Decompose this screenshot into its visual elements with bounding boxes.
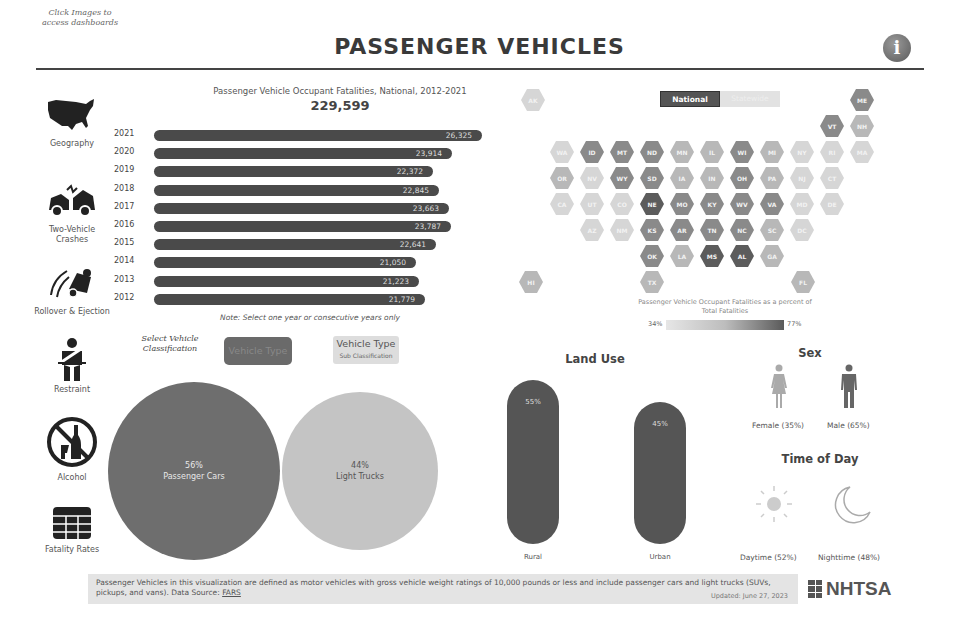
national-toggle[interactable]: National (660, 91, 720, 107)
state-hex-ok[interactable]: OK (640, 245, 664, 267)
state-hex-nj[interactable]: NJ (790, 167, 814, 189)
land-use-title: Land Use (540, 352, 650, 366)
state-hex-de[interactable]: DE (820, 193, 844, 215)
state-hex-ct[interactable]: CT (820, 167, 844, 189)
light-trucks-bubble[interactable]: 44% Light Trucks (282, 392, 438, 550)
rural-pct: 55% (507, 398, 559, 406)
urban-bar[interactable]: 45% (634, 402, 686, 544)
state-hex-pa[interactable]: PA (760, 167, 784, 189)
time-of-day-title: Time of Day (760, 452, 880, 466)
map-legend-title: Passenger Vehicle Occupant Fatalities as… (630, 298, 820, 316)
passenger-cars-bubble[interactable]: 56% Passenger Cars (108, 382, 280, 560)
state-hex-vt[interactable]: VT (820, 115, 844, 137)
vehicle-type-sub-classification-button[interactable]: Vehicle Type Sub Classification (333, 336, 399, 364)
male-icon[interactable] (838, 364, 860, 414)
vehicle-type-button[interactable]: Vehicle Type (224, 337, 292, 365)
bar-row-2017: 201723,663 (114, 201, 494, 215)
state-hex-il[interactable]: IL (700, 141, 724, 163)
state-hex-id[interactable]: ID (580, 141, 604, 163)
year-bar[interactable]: 26,325 (154, 130, 482, 141)
bar-row-2014: 201421,050 (114, 255, 494, 269)
state-hex-ri[interactable]: RI (820, 141, 844, 163)
year-bar[interactable]: 21,223 (154, 276, 419, 287)
nhtsa-logo[interactable]: NHTSA (808, 575, 928, 603)
state-hex-fl[interactable]: FL (791, 271, 815, 293)
state-hex-nm[interactable]: NM (610, 219, 634, 241)
state-hex-ma[interactable]: MA (850, 141, 874, 163)
state-hex-wy[interactable]: WY (610, 167, 634, 189)
state-hex-or[interactable]: OR (550, 167, 574, 189)
state-hex-nh[interactable]: NH (850, 115, 874, 137)
state-hex-oh[interactable]: OH (730, 167, 754, 189)
state-hex-mo[interactable]: MO (670, 193, 694, 215)
state-hex-dc[interactable]: DC (790, 219, 814, 241)
state-hex-tx[interactable]: TX (640, 271, 664, 293)
statewide-toggle[interactable]: Statewide (720, 91, 780, 107)
light-trucks-label: Light Trucks (336, 471, 384, 482)
state-hex-hi[interactable]: HI (519, 271, 543, 293)
state-hex-sd[interactable]: SD (640, 167, 664, 189)
year-bar[interactable]: 22,845 (154, 185, 439, 196)
click-images-note: Click Images to access dashboards (40, 8, 120, 28)
header-divider (36, 68, 924, 70)
state-hex-ne[interactable]: NE (640, 193, 664, 215)
state-hex-md[interactable]: MD (790, 193, 814, 215)
state-hex-wv[interactable]: WV (730, 193, 754, 215)
bar-row-2013: 201321,223 (114, 274, 494, 288)
state-hex-ga[interactable]: GA (760, 245, 784, 267)
state-hex-mt[interactable]: MT (610, 141, 634, 163)
seatbelt-icon (45, 336, 99, 382)
state-hex-az[interactable]: AZ (580, 219, 604, 241)
state-hex-ny[interactable]: NY (790, 141, 814, 163)
state-hex-ia[interactable]: IA (670, 167, 694, 189)
sidebar-item-rollover-ejection[interactable]: Rollover & Ejection (32, 262, 112, 317)
year-bar[interactable]: 21,050 (154, 257, 416, 268)
moon-icon[interactable] (830, 484, 872, 530)
rural-bar[interactable]: 55% (507, 380, 559, 544)
year-bar[interactable]: 22,372 (154, 166, 433, 177)
state-hex-ut[interactable]: UT (580, 193, 604, 215)
state-hex-ks[interactable]: KS (640, 219, 664, 241)
chart-title: Passenger Vehicle Occupant Fatalities, N… (140, 86, 540, 96)
state-hex-tn[interactable]: TN (700, 219, 724, 241)
year-bar[interactable]: 23,787 (154, 221, 451, 232)
state-hex-nv[interactable]: NV (580, 167, 604, 189)
state-hex-mi[interactable]: MI (760, 141, 784, 163)
state-hex-ky[interactable]: KY (700, 193, 724, 215)
state-hex-nd[interactable]: ND (640, 141, 664, 163)
sidebar-item-alcohol[interactable]: Alcohol (32, 414, 112, 483)
fars-source-link[interactable]: FARS (222, 588, 241, 597)
state-hex-ar[interactable]: AR (670, 219, 694, 241)
state-hex-la[interactable]: LA (670, 245, 694, 267)
state-hex-in[interactable]: IN (700, 167, 724, 189)
info-icon[interactable]: i (883, 34, 911, 62)
state-hex-ms[interactable]: MS (700, 245, 724, 267)
state-hex-nc[interactable]: NC (730, 219, 754, 241)
bar-row-2012: 201221,779 (114, 292, 494, 306)
state-hex-va[interactable]: VA (760, 193, 784, 215)
bar-year-label: 2018 (114, 184, 144, 193)
sidebar-item-geography[interactable]: Geography (32, 94, 112, 149)
state-hex-ca[interactable]: CA (550, 193, 574, 215)
sidebar-item-restraint[interactable]: Restraint (32, 336, 112, 395)
state-hex-me[interactable]: ME (850, 89, 874, 111)
bar-value: 23,663 (413, 203, 439, 214)
urban-label: Urban (634, 553, 686, 561)
sidebar-item-fatality-rates[interactable]: Fatality Rates (32, 504, 112, 555)
state-hex-mn[interactable]: MN (670, 141, 694, 163)
year-bar[interactable]: 21,779 (154, 294, 425, 305)
year-bar[interactable]: 23,914 (154, 148, 452, 159)
female-icon[interactable] (768, 364, 790, 414)
state-hex-sc[interactable]: SC (760, 219, 784, 241)
year-bar[interactable]: 23,663 (154, 203, 449, 214)
sun-icon[interactable] (752, 482, 796, 530)
state-hex-wi[interactable]: WI (730, 141, 754, 163)
state-hex-wa[interactable]: WA (550, 141, 574, 163)
bar-row-2016: 201623,787 (114, 219, 494, 233)
sidebar-item-two-vehicle-crashes[interactable]: Two-Vehicle Crashes (32, 180, 112, 245)
state-hex-co[interactable]: CO (610, 193, 634, 215)
rural-label: Rural (507, 553, 559, 561)
year-bar[interactable]: 22,641 (154, 239, 436, 250)
us-map-icon (45, 94, 99, 136)
state-hex-al[interactable]: AL (730, 245, 754, 267)
